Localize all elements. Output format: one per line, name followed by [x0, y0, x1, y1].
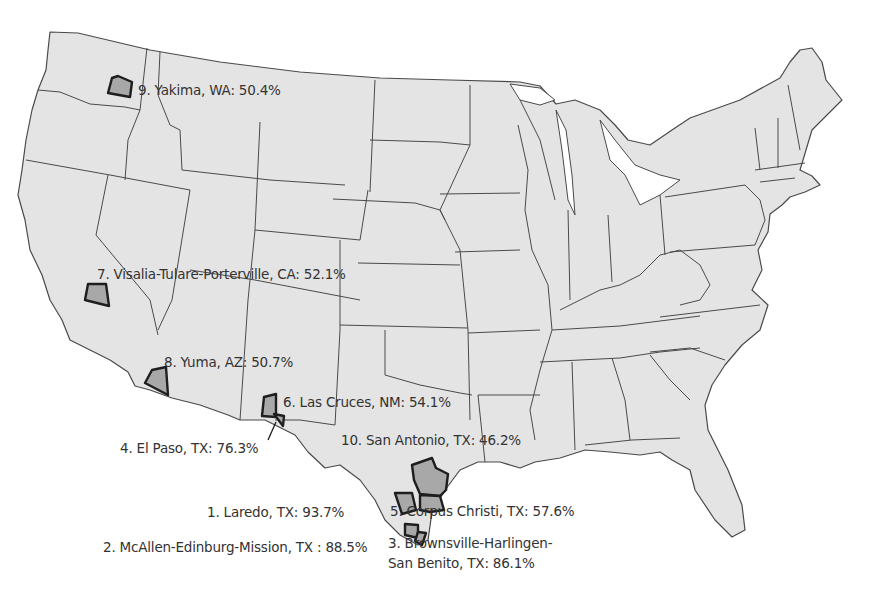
- label-el-paso: 4. El Paso, TX: 76.3%: [120, 440, 258, 457]
- leader-line-el-paso: [268, 422, 276, 440]
- label-brownsville-line2: San Benito, TX: 86.1%: [388, 555, 535, 572]
- us-map: 9. Yakima, WA: 50.4% 7. Visalia-Tulare-P…: [0, 0, 881, 593]
- label-laredo: 1. Laredo, TX: 93.7%: [207, 504, 344, 521]
- label-las-cruces: 6. Las Cruces, NM: 54.1%: [283, 394, 451, 411]
- label-yakima: 9. Yakima, WA: 50.4%: [138, 82, 281, 99]
- label-visalia: 7. Visalia-Tulare-Porterville, CA: 52.1%: [97, 266, 346, 283]
- label-corpus-christi: 5. Corpus Christi, TX: 57.6%: [390, 503, 574, 520]
- label-san-antonio: 10. San Antonio, TX: 46.2%: [341, 432, 521, 449]
- label-mcallen: 2. McAllen-Edinburg-Mission, TX : 88.5%: [103, 539, 367, 556]
- label-yuma: 8. Yuma, AZ: 50.7%: [164, 354, 293, 371]
- label-brownsville-line1: 3. Brownsville-Harlingen-: [388, 535, 552, 552]
